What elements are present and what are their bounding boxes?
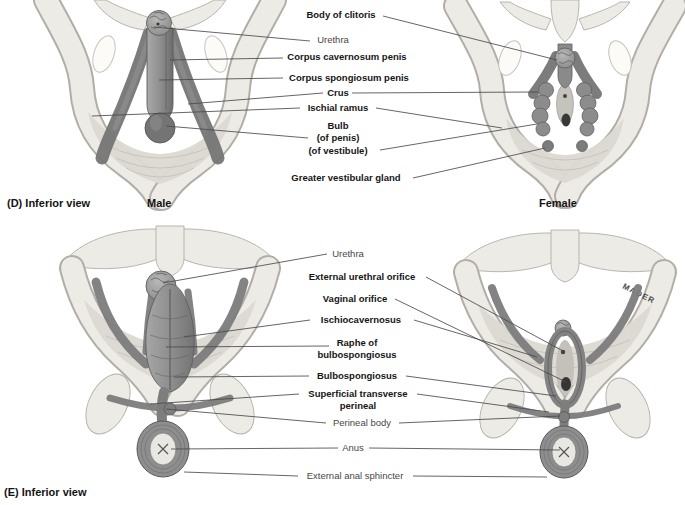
label-body-of-clitoris: Body of clitoris (306, 9, 375, 21)
perineal-body-knot (559, 412, 570, 423)
label-bulbospongiosus: Bulbospongiosus (317, 370, 397, 382)
label-superficial-transverse-perineal: Superficial transverse perineal (308, 388, 407, 413)
panel-d-male-caption: Male (147, 197, 171, 209)
label-bulb: Bulb (of penis) (of vestibule) (308, 120, 367, 157)
leader-crus-left (188, 93, 323, 104)
leader-corpus-spongiosum (159, 78, 283, 80)
panel-d-male-figure (46, 0, 274, 198)
label-vaginal-orifice: Vaginal orifice (323, 293, 387, 305)
label-raphe-of-bulbospongiosus: Raphe of bulbospongiosus (317, 337, 396, 362)
label-raphe-line2: bulbospongiosus (317, 349, 396, 361)
greater-vestibular-gland (577, 141, 588, 152)
label-anus: Anus (342, 442, 364, 454)
label-urethra-bottom: Urethra (332, 248, 364, 260)
label-corpus-spongiosum-penis: Corpus spongiosum penis (289, 72, 409, 84)
label-raphe-line1: Raphe of (317, 337, 396, 349)
panel-d-female-caption: Female (539, 197, 577, 209)
glans-penis (147, 11, 172, 36)
vaginal-orifice (562, 114, 571, 127)
obturator-foramen (201, 33, 232, 75)
perineal-membrane (506, 118, 624, 183)
panel-e-male-figure (64, 226, 276, 477)
label-urethra-top: Urethra (317, 34, 349, 46)
leader-anus-left (171, 448, 338, 449)
label-bulb-line3: (of vestibule) (308, 144, 367, 156)
label-ischial-ramus: Ischial ramus (308, 102, 369, 114)
label-corpus-cavernosum-penis: Corpus cavernosum penis (287, 51, 406, 63)
urethral-orifice (563, 94, 567, 98)
label-greater-vestibular-gland: Greater vestibular gland (291, 172, 400, 184)
leader-anal-sphincter-left (184, 472, 298, 476)
obturator-foramen (89, 33, 120, 75)
label-ischiocavernosus: Ischiocavernosus (321, 314, 401, 326)
label-external-anal-sphincter: External anal sphincter (307, 470, 404, 482)
vaginal-orifice (561, 377, 571, 391)
leader-anal-sphincter-right (413, 476, 547, 477)
clitoris-glans (555, 48, 575, 68)
leader-anus-right (369, 448, 560, 450)
anal-sphincter-ring (540, 426, 588, 478)
label-bulb-line1: Bulb (308, 120, 367, 132)
panel-d-female-figure (456, 0, 674, 196)
label-perineal-body: Perineal body (333, 417, 391, 429)
panel-e-female-figure: MADER (458, 230, 672, 478)
urethral-orifice (156, 22, 159, 25)
label-stp-line2: perineal (308, 400, 407, 412)
anatomy-figure: MADER (0, 0, 685, 505)
panel-d-caption: (D) Inferior view (7, 197, 90, 209)
greater-vestibular-gland (543, 141, 554, 152)
leader-perineal-body-right (399, 416, 560, 423)
label-external-urethral-orifice: External urethral orifice (309, 271, 416, 283)
label-crus: Crus (327, 87, 349, 99)
panel-e-caption: (E) Inferior view (4, 486, 87, 498)
label-bulb-line2: (of penis) (308, 132, 367, 144)
leader-crus-right (352, 92, 538, 93)
label-stp-line1: Superficial transverse (308, 388, 407, 400)
penis-shaft (147, 28, 173, 122)
